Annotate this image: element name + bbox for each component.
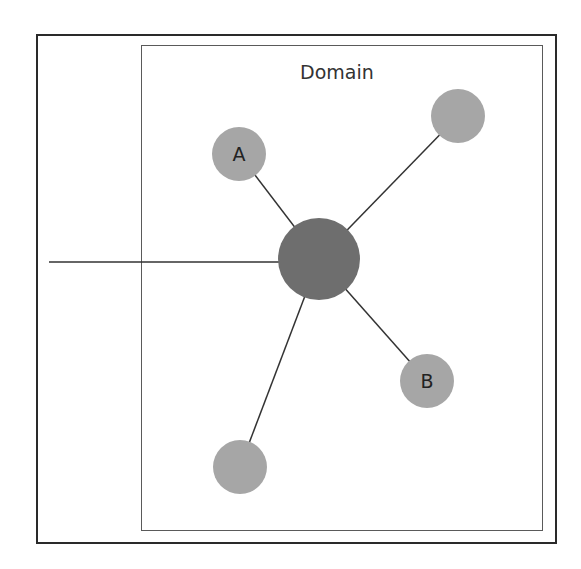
center-node: [278, 218, 360, 300]
node-a: A: [212, 127, 266, 181]
node-top-right: [431, 89, 485, 143]
node-b: B: [400, 354, 454, 408]
network-diagram: Domain A B: [0, 0, 581, 569]
node-bottom-left: [213, 440, 267, 494]
